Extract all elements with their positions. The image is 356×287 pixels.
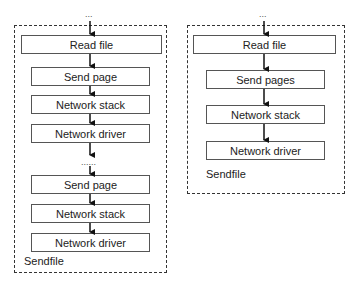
flow-arrows <box>0 0 356 287</box>
